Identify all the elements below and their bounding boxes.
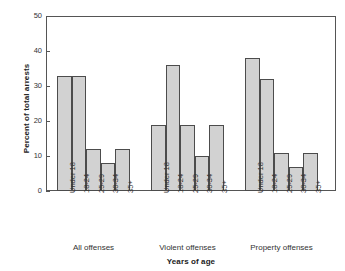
bar-chart: Percent of total arrests 01020304050 Und… bbox=[0, 0, 345, 271]
y-tick-label: 20 bbox=[18, 116, 42, 125]
x-group-label: All offenses bbox=[49, 243, 139, 252]
x-category-label: 35+ bbox=[314, 141, 323, 193]
x-group-label: Property offenses bbox=[237, 243, 327, 252]
y-tick-label: 10 bbox=[18, 151, 42, 160]
x-category-label: 25-29 bbox=[285, 141, 294, 193]
y-tick-label: 30 bbox=[18, 81, 42, 90]
y-tick-label: 40 bbox=[18, 46, 42, 55]
x-category-label: 30-34 bbox=[111, 141, 120, 193]
x-category-label: 25-29 bbox=[97, 141, 106, 193]
x-category-label: Under 18 bbox=[256, 141, 265, 193]
x-category-label: 30-34 bbox=[205, 141, 214, 193]
x-category-label: 18-24 bbox=[82, 141, 91, 193]
x-group-label: Violent offenses bbox=[143, 243, 233, 252]
x-category-label: 18-24 bbox=[176, 141, 185, 193]
x-category-label: 30-34 bbox=[299, 141, 308, 193]
x-axis-title: Years of age bbox=[46, 257, 336, 266]
x-category-label: 18-24 bbox=[270, 141, 279, 193]
x-category-label: 35+ bbox=[220, 141, 229, 193]
y-tick-label: 50 bbox=[18, 11, 42, 20]
y-tick-mark bbox=[46, 191, 50, 192]
x-category-label: 35+ bbox=[126, 141, 135, 193]
x-category-label: Under 18 bbox=[68, 141, 77, 193]
x-category-label: 25-29 bbox=[191, 141, 200, 193]
x-category-label: Under 18 bbox=[162, 141, 171, 193]
y-tick-label: 0 bbox=[18, 186, 42, 195]
